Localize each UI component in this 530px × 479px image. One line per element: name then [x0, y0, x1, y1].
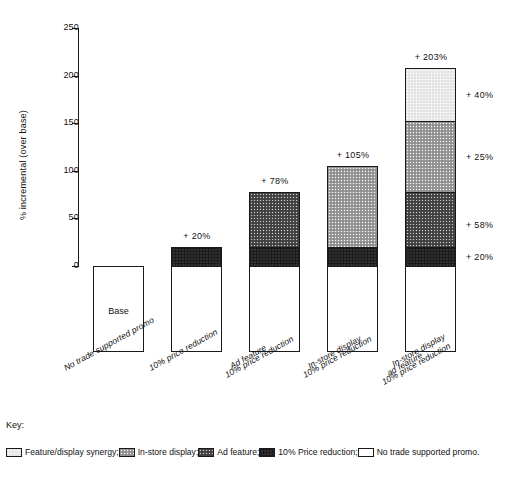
legend-swatch-ad-feature — [198, 448, 214, 457]
legend-item-price-reduction[interactable]: 10% Price reduction; — [259, 447, 357, 457]
bar-total-label: + 20% — [152, 232, 242, 241]
bar-segment-in-store-display — [405, 121, 456, 192]
bar-segment-price-reduction — [405, 247, 456, 266]
legend-label-no-trade-supported-promo: No trade supported promo. — [377, 447, 480, 457]
bar-segment-ad-feature — [405, 192, 456, 247]
annotation-in-store-display: + 25% — [466, 153, 493, 162]
legend-swatch-synergy — [6, 448, 22, 457]
key-title: Key: — [6, 421, 24, 430]
bar-total-label: + 78% — [230, 177, 320, 186]
legend-item-no-trade-supported-promo[interactable]: No trade supported promo. — [358, 447, 480, 457]
legend-label-price-reduction: 10% Price reduction; — [278, 447, 357, 457]
bar-total-label: + 105% — [308, 151, 398, 160]
bar-segment-ad-feature — [249, 192, 300, 247]
legend-item-ad-feature[interactable]: Ad feature; — [198, 447, 259, 457]
bar-base-text: Base — [93, 307, 144, 316]
bar-segment-price-reduction — [171, 247, 222, 266]
annotation-price-reduction: + 20% — [466, 253, 493, 262]
legend-item-in-store-display[interactable]: In-store display; — [119, 447, 199, 457]
bar-total-label: + 203% — [386, 53, 476, 62]
legend-item-feature-display-synergy[interactable]: Feature/display synergy; — [6, 447, 119, 457]
bar-segment-in-store-display — [327, 166, 378, 247]
legend-label-synergy: Feature/display synergy; — [25, 447, 119, 457]
bar-segment-price-reduction — [327, 247, 378, 266]
bar-segment-price-reduction — [249, 247, 300, 266]
legend-swatch-price-reduction — [259, 448, 275, 457]
legend-swatch-base — [358, 448, 374, 457]
chart-legend: Feature/display synergy; In-store displa… — [6, 447, 479, 457]
bar-segment-feature-display-synergy — [405, 68, 456, 121]
annotation-ad-feature: + 58% — [466, 221, 493, 230]
annotation-synergy: + 40% — [466, 91, 493, 100]
legend-swatch-in-store-display — [119, 448, 135, 457]
plot-area: Base + 20% + 78% + 105% — [0, 0, 530, 479]
legend-label-ad-feature: Ad feature; — [217, 447, 259, 457]
legend-label-in-store-display: In-store display; — [138, 447, 199, 457]
stacked-bar-chart: 250 200 150 100 50 0 % incremental (over… — [0, 0, 530, 479]
